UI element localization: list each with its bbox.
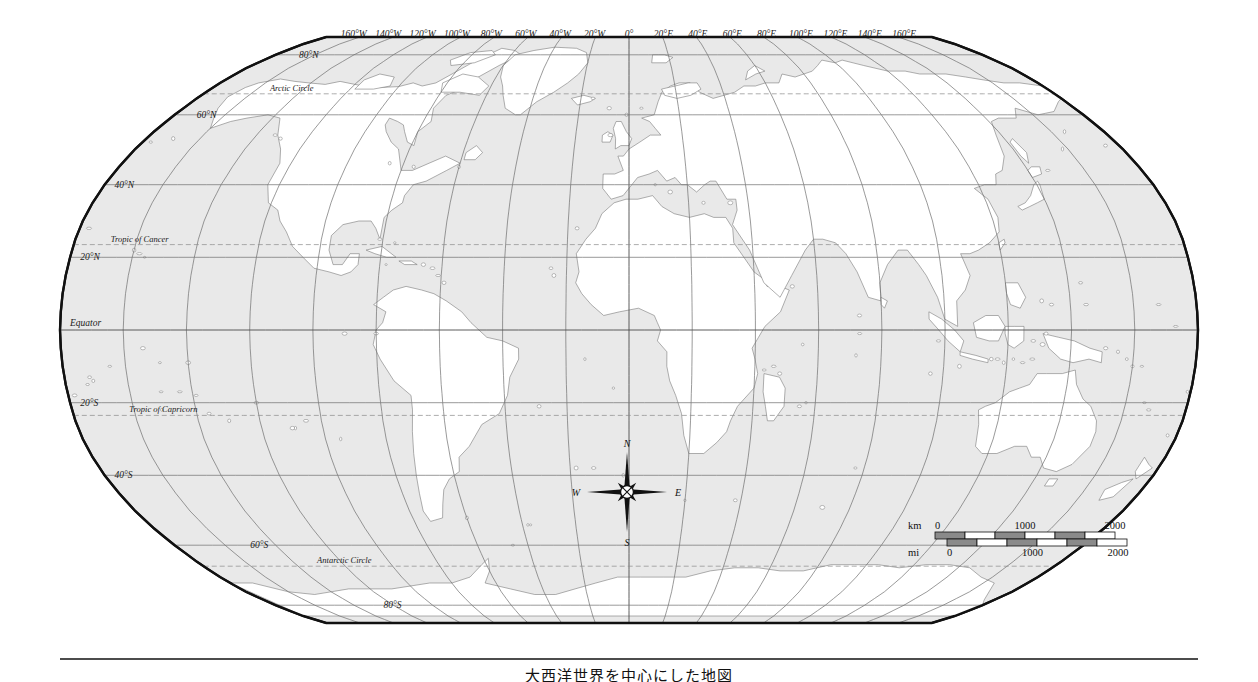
island-speck-83 [591, 97, 595, 100]
island-speck-50 [378, 238, 382, 240]
island-speck-49 [442, 281, 446, 284]
island-speck-89 [388, 161, 391, 164]
arctic-circle: Arctic Circle [269, 83, 314, 93]
island-speck-20 [342, 332, 347, 335]
island-speck-21 [584, 358, 586, 361]
island-speck-86 [640, 107, 643, 109]
tropic-of-cancer: Tropic of Cancer [111, 234, 169, 244]
island-speck-60 [1079, 282, 1083, 284]
longitude-label-40: 40°E [688, 29, 707, 39]
island-speck-102 [340, 437, 342, 441]
island-speck-91 [279, 137, 283, 140]
scale-seg-mi-4 [1067, 539, 1097, 546]
latitude-label-80S: 80°S [384, 600, 402, 610]
longitude-label--60: 60°W [515, 29, 537, 39]
compass-label-east: E [674, 487, 681, 498]
island-speck-51 [394, 242, 396, 244]
latitude-label-equator: Equator [69, 318, 101, 328]
map-canvas: 160°W140°W120°W100°W80°W60°W40°W20°W0°20… [0, 0, 1258, 682]
longitude-label-20: 20°E [654, 29, 673, 39]
island-speck-43 [549, 267, 553, 270]
island-speck-95 [1104, 144, 1108, 147]
latitude-label-20: 20°N [80, 252, 100, 262]
island-speck-16 [137, 253, 142, 255]
latitude-label-80N: 80°N [299, 50, 319, 60]
island-speck-24 [527, 524, 529, 527]
island-speck-41 [728, 201, 733, 205]
longitude-label-160: 160°E [892, 29, 916, 39]
island-speck-93 [149, 141, 152, 143]
tropic-of-capricorn: Tropic of Capricorn [129, 404, 197, 414]
latitude-label-60S: 60°S [250, 540, 268, 550]
antarctic-circle: Antarctic Circle [316, 555, 372, 565]
island-speck-13 [1173, 325, 1178, 327]
island-speck-80 [995, 358, 1000, 360]
island-speck-67 [790, 285, 794, 288]
island-speck-11 [1084, 303, 1089, 305]
longitude-label--20: 20°W [584, 29, 606, 39]
island-speck-94 [172, 137, 175, 141]
island-speck-10 [1104, 347, 1108, 350]
island-speck-64 [1166, 434, 1169, 437]
island-speck-58 [108, 365, 112, 367]
island-speck-62 [1040, 299, 1044, 303]
island-speck-76 [1012, 358, 1015, 361]
longitude-label-0: 0° [625, 29, 634, 39]
island-speck-22 [612, 387, 614, 389]
island-speck-42 [575, 227, 579, 230]
longitude-label--140: 140°W [375, 29, 402, 39]
scale-seg-mi-2 [1007, 539, 1037, 546]
island-speck-59 [88, 376, 92, 379]
longitude-label-140: 140°E [858, 29, 882, 39]
island-speck-82 [1044, 332, 1048, 335]
longitude-label--40: 40°W [550, 29, 572, 39]
island-speck-7 [1125, 358, 1128, 361]
island-speck-38 [702, 201, 705, 204]
island-speck-47 [421, 263, 425, 267]
scale-seg-km-2 [995, 532, 1025, 539]
island-speck-105 [177, 391, 182, 393]
island-speck-4 [1186, 390, 1189, 393]
island-speck-96 [1063, 130, 1065, 134]
island-speck-99 [574, 466, 578, 470]
island-speck-88 [412, 165, 415, 168]
island-speck-54 [228, 419, 231, 423]
scale-tick-km-1: 1000 [1015, 520, 1036, 531]
island-speck-75 [958, 364, 962, 368]
island-speck-9 [1117, 350, 1120, 353]
scale-seg-km-0 [935, 532, 965, 539]
island-speck-57 [141, 347, 146, 350]
island-speck-17 [86, 227, 91, 229]
scale-tick-km-0: 0 [935, 520, 940, 531]
island-speck-87 [608, 133, 613, 136]
island-speck-103 [294, 426, 296, 429]
island-speck-72 [778, 372, 782, 375]
scale-seg-km-1 [965, 532, 995, 539]
island-speck-73 [801, 343, 804, 346]
island-speck-48 [385, 264, 387, 266]
island-speck-69 [858, 333, 862, 335]
scale-tick-mi-0: 0 [947, 547, 952, 558]
map-title: 大西洋世界を中心にした地図 [0, 664, 1258, 682]
island-speck-100 [591, 467, 596, 470]
scale-tick-mi-1: 1000 [1022, 547, 1043, 558]
latitude-label-60N: 60°N [197, 110, 217, 120]
scale-seg-mi-1 [977, 539, 1007, 546]
longitude-label-60: 60°E [723, 29, 742, 39]
island-speck-35 [936, 340, 940, 342]
scale-tick-km-2: 2000 [1105, 520, 1126, 531]
longitude-label-100: 100°E [789, 29, 813, 39]
island-speck-36 [1031, 340, 1036, 343]
island-speck-55 [194, 394, 198, 396]
latitude-label-40: 40°N [114, 180, 134, 190]
longitude-label--120: 120°W [410, 29, 437, 39]
island-speck-46 [430, 267, 435, 270]
island-speck-77 [1020, 362, 1025, 364]
island-speck-29 [733, 499, 737, 502]
scale-seg-mi-3 [1037, 539, 1067, 546]
longitude-label-120: 120°E [823, 29, 847, 39]
scale-seg-km-3 [1025, 532, 1055, 539]
island-speck-3 [72, 394, 77, 397]
island-speck-92 [273, 134, 277, 137]
scale-unit-mi: mi [908, 547, 919, 558]
